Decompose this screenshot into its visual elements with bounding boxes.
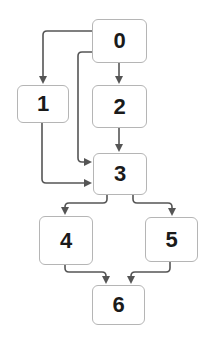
node-0: 0 <box>92 19 147 63</box>
edge-5-to-6-arrow-icon <box>131 262 170 282</box>
node-4: 4 <box>39 216 93 265</box>
edge-0-to-1-arrow-icon <box>43 31 92 82</box>
edge-3-to-4-arrow-icon <box>65 195 107 213</box>
node-5: 5 <box>145 217 198 262</box>
edge-1-to-3-arrow-icon <box>42 123 90 183</box>
node-1: 1 <box>17 85 69 123</box>
node-label: 6 <box>112 294 124 316</box>
node-label: 1 <box>37 93 49 115</box>
node-label: 2 <box>113 96 125 118</box>
node-2: 2 <box>92 85 147 128</box>
node-label: 4 <box>60 230 72 252</box>
node-label: 3 <box>114 163 126 185</box>
node-label: 0 <box>113 30 125 52</box>
node-3: 3 <box>93 153 147 195</box>
edge-3-to-5-arrow-icon <box>133 195 172 214</box>
node-label: 5 <box>165 229 177 251</box>
node-6: 6 <box>92 285 145 325</box>
edge-4-to-6-arrow-icon <box>65 265 106 282</box>
dependency-graph: 0123456 <box>0 0 210 345</box>
edge-0-to-3-arrow-icon <box>78 52 92 162</box>
